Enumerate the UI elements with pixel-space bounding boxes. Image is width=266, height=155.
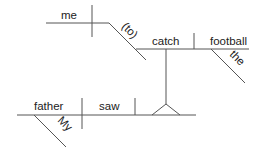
- pedestal: [152, 104, 180, 115]
- word-my: My: [56, 114, 76, 134]
- word-football: football: [210, 35, 247, 47]
- sentence-diagram: me (to) catch football the father saw My: [0, 0, 266, 155]
- word-to: (to): [120, 20, 141, 41]
- word-me: me: [61, 9, 77, 21]
- word-catch: catch: [152, 35, 180, 47]
- word-saw: saw: [99, 100, 120, 112]
- word-father: father: [34, 100, 64, 112]
- word-the: the: [228, 48, 248, 68]
